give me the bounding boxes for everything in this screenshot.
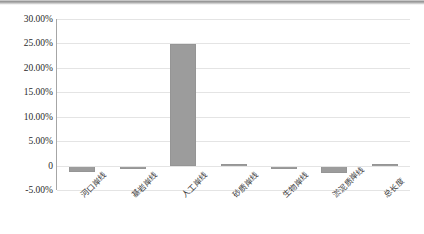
gridline bbox=[57, 117, 410, 118]
y-axis-tick-labels: 30.00%25.00%20.00%15.00%10.00%5.00%0-5.0… bbox=[0, 0, 53, 234]
gridline bbox=[57, 92, 410, 93]
y-axis-tick-label: 30.00% bbox=[1, 14, 53, 24]
gridline bbox=[57, 68, 410, 69]
y-axis-tick-label: 15.00% bbox=[1, 87, 53, 97]
bar[interactable] bbox=[170, 44, 196, 166]
gridline bbox=[57, 141, 410, 142]
gridline bbox=[57, 19, 410, 20]
x-axis-tick-labels: 河口岸线基岩岸线人工岸线砂质岸线生物岸线淤泥质岸线总长度 bbox=[57, 190, 410, 234]
y-axis-tick-label: 0 bbox=[1, 161, 53, 171]
gridline bbox=[57, 43, 410, 44]
bar-chart: 30.00%25.00%20.00%15.00%10.00%5.00%0-5.0… bbox=[0, 0, 424, 234]
y-axis-tick-label: -5.00% bbox=[1, 185, 53, 195]
y-axis-tick-label: 5.00% bbox=[1, 136, 53, 146]
zero-baseline bbox=[57, 166, 410, 167]
y-axis-tick-label: 10.00% bbox=[1, 112, 53, 122]
y-axis-tick-label: 20.00% bbox=[1, 63, 53, 73]
y-axis-tick-label: 25.00% bbox=[1, 38, 53, 48]
bar[interactable] bbox=[321, 166, 347, 174]
